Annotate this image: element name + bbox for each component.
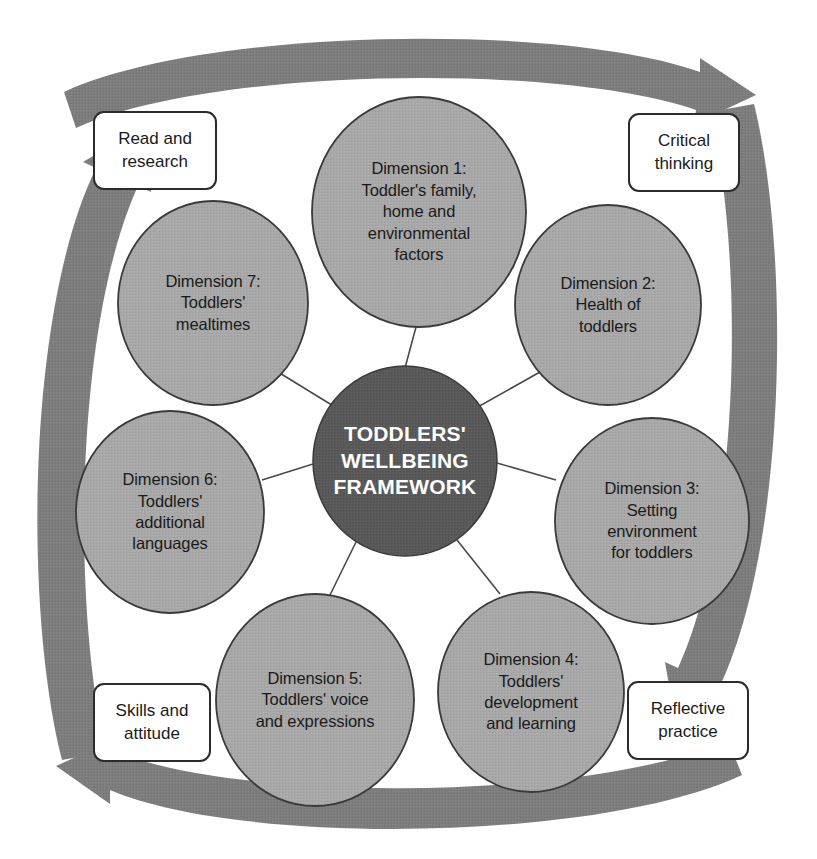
- connector-to-dimension-2: [476, 372, 540, 408]
- node-dimension-7: [118, 201, 308, 405]
- framework-diagram: Dimension 1: Toddler's family, home and …: [0, 0, 817, 859]
- node-dimension-1: [312, 97, 526, 327]
- connector-to-dimension-1: [405, 327, 416, 368]
- node-dimension-4: [438, 592, 624, 792]
- node-center-hub: [313, 366, 497, 556]
- node-dimension-5: [216, 594, 414, 806]
- connector-to-dimension-3: [497, 463, 556, 480]
- corner-box-critical-thinking[interactable]: Critical thinking: [628, 113, 740, 192]
- connector-to-dimension-5: [330, 542, 356, 595]
- corner-box-read-and-research[interactable]: Read and research: [93, 111, 217, 190]
- connector-to-dimension-6: [262, 464, 313, 480]
- corner-box-reflective-practice[interactable]: Reflective practice: [627, 681, 749, 760]
- connector-to-dimension-7: [278, 372, 335, 407]
- corner-box-skills-and-attitude[interactable]: Skills and attitude: [93, 683, 211, 762]
- cycle-arrow-right: [665, 104, 777, 726]
- connector-to-dimension-4: [457, 540, 500, 594]
- node-dimension-2: [515, 205, 701, 405]
- node-dimension-6: [76, 411, 264, 613]
- node-dimension-3: [555, 418, 749, 624]
